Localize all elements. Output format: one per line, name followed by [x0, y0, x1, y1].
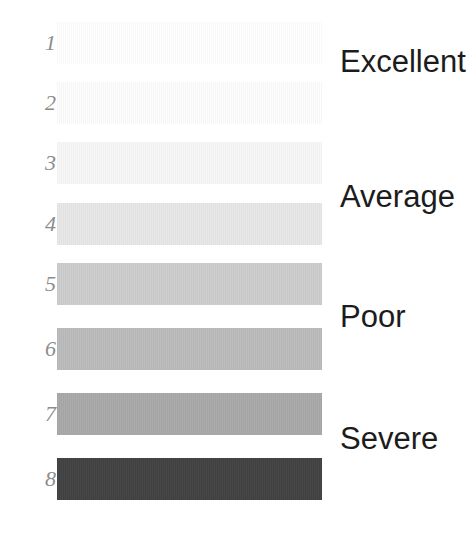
step-swatch — [57, 142, 322, 184]
step-swatch — [57, 263, 322, 305]
quality-label-average: Average — [340, 181, 455, 212]
step-swatch — [57, 82, 322, 124]
step-swatch — [57, 458, 322, 500]
step-row: 2 — [0, 82, 473, 124]
quality-label-severe: Severe — [340, 423, 438, 454]
step-number: 8 — [30, 458, 56, 500]
step-number: 4 — [30, 203, 56, 245]
step-number: 7 — [30, 393, 56, 435]
step-row: 6 — [0, 328, 473, 370]
grayscale-reference-scale: 1 2 3 4 5 6 7 8 Excellent Average Poor S… — [0, 0, 473, 533]
step-swatch — [57, 22, 322, 64]
quality-label-poor: Poor — [340, 301, 405, 332]
step-row: 3 — [0, 142, 473, 184]
step-swatch — [57, 203, 322, 245]
step-swatch — [57, 393, 322, 435]
step-number: 3 — [30, 142, 56, 184]
step-row: 8 — [0, 458, 473, 500]
step-number: 1 — [30, 22, 56, 64]
step-swatch — [57, 328, 322, 370]
step-number: 6 — [30, 328, 56, 370]
quality-label-excellent: Excellent — [340, 46, 466, 77]
step-number: 2 — [30, 82, 56, 124]
step-number: 5 — [30, 263, 56, 305]
